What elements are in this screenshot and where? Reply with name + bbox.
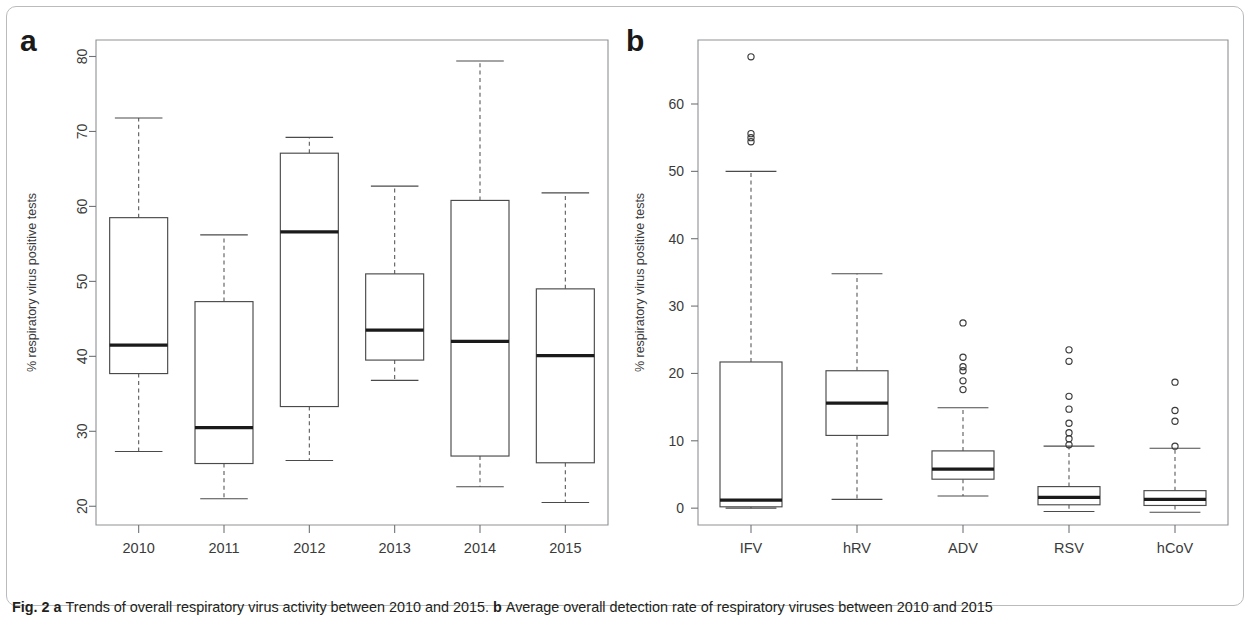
y-axis-tick-label: 60 (74, 198, 90, 214)
plot-frame (96, 40, 608, 525)
x-axis-category-label: 2015 (549, 540, 581, 556)
caption-figure-number: Fig. 2 (12, 599, 50, 615)
y-axis-tick-label: 10 (668, 433, 684, 449)
box-iqr (720, 362, 782, 507)
box-iqr (110, 218, 168, 374)
outlier-point (1172, 418, 1178, 424)
x-axis-category-label: RSV (1054, 540, 1084, 556)
outlier-point (1066, 420, 1072, 426)
y-axis-tick-label: 20 (668, 365, 684, 381)
panel-a: a 20304050607080% respiratory virus posi… (10, 10, 622, 586)
outlier-point (960, 387, 966, 393)
boxplot-group (366, 186, 424, 380)
x-axis-category-label: 2011 (208, 540, 239, 556)
x-axis-category-label: IFV (740, 540, 763, 556)
x-axis-category-label: hRV (843, 540, 871, 556)
x-axis-category-label: 2013 (379, 540, 411, 556)
outlier-point (960, 320, 966, 326)
outlier-point (1066, 358, 1072, 364)
y-axis-tick-label: 80 (74, 48, 90, 64)
outlier-point (1066, 347, 1072, 353)
outlier-point (1172, 379, 1178, 385)
y-axis-tick-label: 30 (74, 423, 90, 439)
y-axis-title: % respiratory virus positive tests (25, 193, 39, 372)
outlier-point (748, 139, 754, 145)
y-axis-tick-label: 40 (668, 231, 684, 247)
y-axis-tick-label: 70 (74, 123, 90, 139)
box-iqr (280, 153, 338, 406)
boxplot-a: 20304050607080% respiratory virus positi… (10, 10, 622, 586)
outlier-point (748, 54, 754, 60)
panel-b: b 0102030405060% respiratory virus posit… (622, 10, 1240, 586)
outlier-point (960, 354, 966, 360)
boxplot-group (536, 193, 594, 503)
x-axis-category-label: 2010 (123, 540, 155, 556)
caption-text: Fig. 2 a Trends of overall respiratory v… (12, 598, 993, 616)
caption-body-a: Trends of overall respiratory virus acti… (66, 599, 489, 615)
boxplot-group (720, 54, 782, 508)
box-iqr (1038, 487, 1100, 505)
box-iqr (366, 274, 424, 360)
y-axis-title: % respiratory virus positive tests (633, 193, 647, 372)
outlier-point (1066, 393, 1072, 399)
y-axis-tick-label: 50 (668, 163, 684, 179)
figure-caption: Fig. 2 a Trends of overall respiratory v… (6, 590, 1244, 624)
y-axis-tick-label: 60 (668, 96, 684, 112)
caption-marker-a: a (54, 599, 62, 615)
y-axis-tick-label: 40 (74, 348, 90, 364)
boxplot-group (110, 118, 168, 452)
y-axis-tick-label: 0 (676, 500, 684, 516)
boxplot-group (1038, 347, 1100, 512)
boxplot-group (932, 320, 994, 496)
outlier-point (960, 368, 966, 374)
outlier-point (1066, 430, 1072, 436)
x-axis-category-label: 2012 (293, 540, 325, 556)
figure-root: a 20304050607080% respiratory virus posi… (0, 0, 1252, 628)
boxplot-group (195, 235, 253, 499)
x-axis-category-label: 2014 (464, 540, 496, 556)
outlier-point (1172, 407, 1178, 413)
box-iqr (451, 200, 509, 456)
x-axis-category-label: ADV (948, 540, 978, 556)
caption-marker-b: b (493, 599, 502, 615)
boxplot-group (280, 137, 338, 460)
box-iqr (195, 302, 253, 464)
outlier-point (1066, 436, 1072, 442)
box-iqr (932, 451, 994, 479)
boxplot-group (451, 61, 509, 487)
y-axis-tick-label: 50 (74, 273, 90, 289)
caption-body-b: Average overall detection rate of respir… (506, 599, 993, 615)
boxplot-group (826, 274, 888, 500)
boxplot-group (1144, 379, 1206, 512)
y-axis-tick-label: 20 (74, 498, 90, 514)
y-axis-tick-label: 30 (668, 298, 684, 314)
boxplot-b: 0102030405060% respiratory virus positiv… (622, 10, 1240, 586)
outlier-point (1066, 406, 1072, 412)
box-iqr (536, 289, 594, 463)
outlier-point (960, 378, 966, 384)
x-axis-category-label: hCoV (1157, 540, 1194, 556)
